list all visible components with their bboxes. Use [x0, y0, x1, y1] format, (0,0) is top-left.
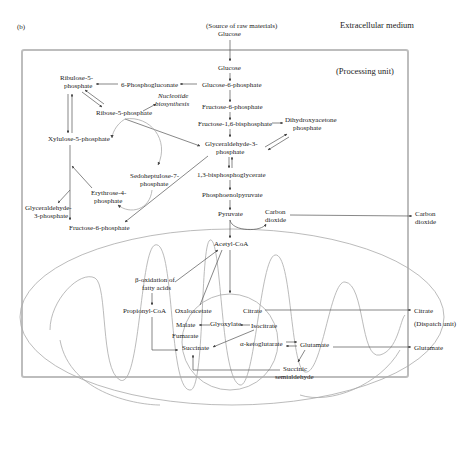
edge-g3p-f6p-left [125, 156, 208, 222]
edge-co2-export [290, 215, 412, 216]
node-6-phosphogluconate: 6-Phosphogluconate [121, 81, 178, 89]
node-ribulose-5-phosphate-line1: Ribulose-5- [60, 74, 94, 82]
node-carbon-dioxide-in-line1: Carbon [265, 208, 286, 216]
node-beta-oxidation-line2: fatty acids [142, 284, 171, 292]
node-nucleotide-line1: Nucleotide [157, 92, 188, 100]
node-oxaloacetate: Oxaloacetate [175, 307, 212, 315]
node-xylulose-5-phosphate: Xylulose-5-phosphate [48, 135, 110, 143]
node-glucose: Glucose [218, 64, 241, 72]
node-dhap-line2: phosphate [293, 124, 321, 132]
edge-r5p-x5p-transketolase [112, 119, 125, 138]
processing-unit-label: (Processing unit) [336, 66, 394, 76]
node-propionyl-coa: Propionyl-CoA [123, 307, 166, 315]
extracellular-medium-label: Extracellular medium [340, 20, 414, 30]
metabolic-pathway-diagram: (b) Extracellular medium (Processing uni… [0, 0, 473, 454]
node-g3p-line1: Glyceraldehyde-3- [205, 140, 258, 148]
edge-x5p-g3p-left [58, 190, 70, 203]
node-glutamate: Glutamate [300, 341, 329, 349]
edge-betaox-acetylcoa [175, 250, 218, 282]
node-g3p-line2: phosphate [216, 148, 244, 156]
node-carbon-dioxide-out-line2: dioxide [415, 218, 436, 226]
node-glucose-6-phosphate: Glucose-6-phosphate [202, 81, 261, 89]
node-ribose-5-phosphate: Ribose-5-phosphate [96, 109, 152, 117]
node-fumarate: Fumarate [172, 332, 198, 340]
node-glyoxylate: Glyoxylate [210, 320, 241, 328]
node-sedoheptulose-7-phosphate-line2: phosphate [140, 180, 168, 188]
mitochondrion-inner-membrane [50, 240, 405, 390]
node-malate: Malate [176, 321, 195, 329]
node-phosphoenolpyruvate: Phosphoenolpyruvate [202, 191, 263, 199]
edge-ssa-succinate [193, 355, 280, 370]
node-sedoheptulose-7-phosphate-line1: Sedoheptulose-7- [130, 172, 180, 180]
node-isocitrate: Isocitrate [251, 322, 277, 330]
mitochondrion-outer-membrane [20, 229, 444, 405]
node-alpha-ketoglutarate: α-ketoglutarate [240, 340, 283, 348]
node-pyruvate: Pyruvate [218, 210, 243, 218]
source-glucose-label: Glucose [218, 30, 241, 38]
edge-glutamate-ssa [298, 350, 305, 362]
node-fructose-1-6-bisphosphate: Fructose-1,6-bisphosphate [198, 120, 272, 128]
node-fructose-6-phosphate: Fructose-6-phosphate [202, 103, 263, 111]
dispatch-unit-label: (Dispatch unit) [414, 320, 457, 328]
edge-r5p-g3p [125, 119, 200, 146]
node-glutamate-out: Glutamate [414, 344, 443, 352]
source-label: (Source of raw materials) [206, 22, 278, 30]
node-1-3-bisphosphoglycerate: 1,3-bisphosphoglycerate [197, 171, 266, 179]
node-citrate: Citrate [243, 307, 262, 315]
node-carbon-dioxide-out-line1: Carbon [415, 210, 436, 218]
edge-e4p-x5p [72, 166, 92, 188]
node-acetyl-coa: Acetyl-CoA [214, 240, 248, 248]
node-succinate: Succinate [182, 344, 209, 352]
panel-label: (b) [17, 23, 26, 31]
node-carbon-dioxide-in-line2: dioxide [265, 216, 286, 224]
edge-pyruvate-co2 [230, 220, 266, 230]
node-erythrose-4-phosphate-line2: phosphate [94, 197, 122, 205]
node-glyceraldehyde-3-phosphate-left-line1: Glyceraldehyde- [25, 204, 72, 212]
edge-r5p-ru5p [85, 90, 104, 104]
node-erythrose-4-phosphate-line1: Erythrose-4- [91, 189, 127, 197]
node-dhap-line1: Dihydroxyacetone [285, 116, 337, 124]
node-citrate-out: Citrate [414, 307, 433, 315]
node-beta-oxidation-line1: β-oxidation of [135, 276, 176, 284]
node-fructose-6-phosphate-left: Fructose-6-phosphate [69, 224, 130, 232]
node-succinic-semialdehyde-line2: semialdehyde [275, 373, 314, 381]
mitochondrion-inner-membrane-lower [60, 340, 400, 405]
node-nucleotide-line2: biosynthesis [155, 100, 189, 108]
node-succinic-semialdehyde-line1: Succinic [283, 365, 307, 373]
node-ribulose-5-phosphate-line2: phosphate [64, 82, 92, 90]
edge-ru5p-r5p [82, 92, 102, 107]
node-glyceraldehyde-3-phosphate-left-line2: 3-phosphate [34, 212, 68, 220]
